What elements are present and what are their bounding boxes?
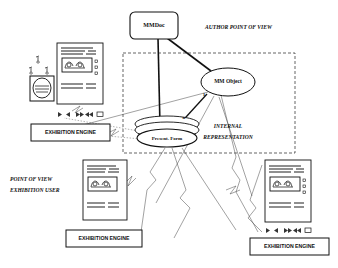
play-icon[interactable] (266, 228, 270, 233)
user-point-of-view-label-line1: POINT OF VIEW (10, 176, 53, 182)
exhibition-engine-bottom-right-label: EXHIBITION ENGINE (264, 243, 316, 249)
play-icon[interactable] (58, 112, 62, 117)
present-form-label: Present. Form (152, 136, 183, 141)
link-mmdoc-to-present-form (158, 38, 160, 126)
rewind-icon[interactable] (66, 112, 70, 117)
note-glyph-icons (29, 56, 48, 74)
internal-representation-label-line2: REPRESENTATION (202, 134, 253, 140)
internal-representation-label-line1: INTERNAL (213, 123, 243, 129)
mm-object-label: MM Object (214, 78, 242, 84)
link-mmdoc-to-mm-object (167, 38, 215, 74)
mmdoc-label: MMDoc (143, 22, 165, 28)
media-controls[interactable] (266, 228, 311, 233)
media-object-disc (33, 78, 51, 98)
user-doc-right-bullet-list (303, 179, 306, 194)
exhibition-engine-left[interactable]: EXHIBITION ENGINE (31, 124, 110, 141)
stop-icon[interactable] (97, 112, 103, 116)
author-media-cluster (29, 56, 54, 101)
diagram-canvas: MMDoc MM Object Present. Form 1 n AUTHOR… (0, 0, 338, 268)
author-point-of-view-label: AUTHOR POINT OF VIEW (204, 24, 273, 30)
author-document-preview[interactable] (57, 43, 103, 117)
node-mmdoc[interactable]: MMDoc (130, 12, 178, 39)
exhibition-engine-bottom-right[interactable]: EXHIBITION ENGINE (250, 238, 329, 255)
user-document-preview-left[interactable] (83, 160, 127, 220)
exhibition-engine-bottom-left[interactable]: EXHIBITION ENGINE (66, 230, 142, 247)
exhibition-engine-bottom-left-label: EXHIBITION ENGINE (78, 235, 130, 241)
rewind-all-icon[interactable] (85, 112, 93, 117)
fast-forward-icon[interactable] (284, 228, 292, 233)
exhibition-engine-left-label: EXHIBITION ENGINE (45, 129, 97, 135)
node-mm-object[interactable]: MM Object (201, 68, 255, 96)
document-bullet-list (95, 60, 98, 75)
user-document-preview-right[interactable] (265, 160, 311, 233)
diagram-svg: MMDoc MM Object Present. Form 1 n AUTHOR… (0, 0, 338, 268)
user-point-of-view-label-line2: EXHIBITION USER (9, 187, 60, 193)
fast-forward-icon[interactable] (76, 112, 84, 117)
media-controls[interactable] (58, 112, 103, 117)
rewind-all-icon[interactable] (293, 228, 301, 233)
cardinality-many-label: n (183, 115, 186, 120)
node-present-form[interactable]: Present. Form (135, 116, 199, 147)
rewind-icon[interactable] (274, 228, 278, 233)
stop-icon[interactable] (305, 228, 311, 232)
